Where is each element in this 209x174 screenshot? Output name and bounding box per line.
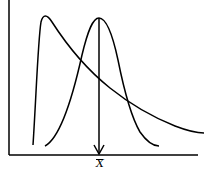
mean-label: X [94,157,106,170]
skewed-curve [33,16,204,145]
distribution-diagram [0,0,209,174]
